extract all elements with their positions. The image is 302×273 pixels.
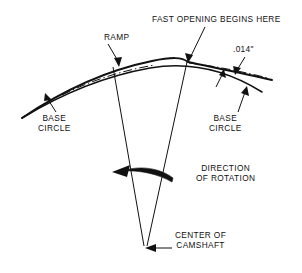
leader-fast-opening [190,27,205,58]
radial-line-right [147,62,187,246]
label-ramp: RAMP [104,32,129,42]
rotation-arrowhead-icon [112,165,130,177]
leader-base-circle-right [238,92,245,112]
rotation-arc [122,168,173,182]
cam-lobe-diagram: FAST OPENING BEGINS HERE RAMP .014" BASE… [0,0,302,273]
arrowhead-ramp-icon [114,57,122,67]
label-base-circle-right: BASE CIRCLE [209,113,242,133]
label-direction-of-rotation: DIRECTION OF ROTATION [196,163,255,183]
arrowhead-base-circle-left-icon [44,93,52,101]
label-center-of-camshaft: CENTER OF CAMSHAFT [175,230,226,250]
arrowhead-base-circle-right-icon [241,86,249,96]
diagram-canvas [0,0,302,273]
label-fast-opening-begins-here: FAST OPENING BEGINS HERE [152,14,281,24]
label-base-circle-left: BASE CIRCLE [38,113,71,133]
radial-line-left [113,67,144,246]
arrowhead-center-camshaft-icon [145,244,156,252]
label-lift-dimension: .014" [233,44,254,54]
base-circle-arc [22,66,262,118]
